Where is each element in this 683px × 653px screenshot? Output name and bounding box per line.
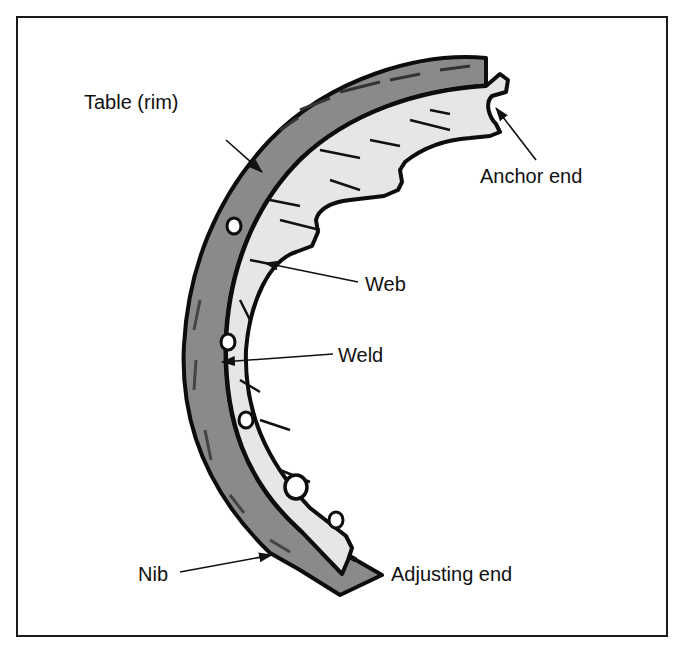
- label-table-rim: Table (rim): [84, 92, 178, 112]
- label-web: Web: [365, 274, 406, 294]
- label-adjusting-end: Adjusting end: [391, 564, 512, 584]
- label-nib: Nib: [138, 564, 168, 584]
- leader-nib: [180, 555, 272, 572]
- label-weld: Weld: [338, 345, 383, 365]
- leader-anchor-end: [496, 108, 536, 160]
- leader-web: [265, 263, 358, 282]
- label-anchor-end: Anchor end: [480, 166, 582, 186]
